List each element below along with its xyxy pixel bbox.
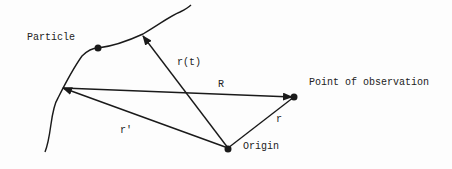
vector-r-prime: [63, 88, 228, 148]
particle-dot: [95, 45, 102, 52]
label-point-of-observation: Point of observation: [309, 77, 429, 88]
label-r-prime: r': [120, 125, 132, 136]
label-particle: Particle: [27, 32, 75, 43]
origin-dot: [225, 146, 232, 153]
vector-diagram: Particle r(t) R Point of observation r' …: [0, 0, 452, 169]
label-r: r: [276, 114, 282, 125]
label-r-t: r(t): [177, 57, 201, 68]
observation-dot: [291, 94, 298, 101]
vector-R: [63, 88, 292, 97]
label-R: R: [218, 79, 224, 90]
label-origin: Origin: [243, 141, 279, 152]
trajectory-curve: [45, 5, 191, 152]
